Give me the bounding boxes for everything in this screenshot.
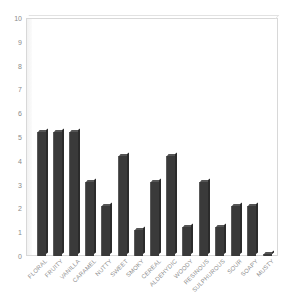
bar-chart: 012345678910 FLORALFRUITYVANILLACARAMELN… [0,0,303,308]
x-axis-labels: FLORALFRUITYVANILLACARAMELNUTTYSWEETSMOK… [33,258,276,308]
bar-slot [65,18,81,256]
y-axis-tick: 6 [18,110,22,117]
bar[interactable] [69,132,78,256]
bar[interactable] [182,227,191,256]
y-axis-tick: 3 [18,181,22,188]
bar-slot [211,18,227,256]
y-axis-tick: 8 [18,62,22,69]
bar[interactable] [118,156,127,256]
bar[interactable] [215,227,224,256]
bar-slot [146,18,162,256]
y-axis-tick: 0 [18,253,22,260]
y-axis-tick: 1 [18,229,22,236]
y-axis: 012345678910 [0,0,26,308]
y-axis-tick: 5 [18,134,22,141]
bar-slot [260,18,276,256]
y-axis-tick: 2 [18,205,22,212]
bar[interactable] [134,230,143,256]
bar-slot [163,18,179,256]
y-axis-tick: 7 [18,86,22,93]
bar[interactable] [37,132,46,256]
bar[interactable] [199,182,208,256]
bar[interactable] [53,132,62,256]
bars-layer [33,18,276,256]
bar[interactable] [231,206,240,256]
bar-slot [195,18,211,256]
bar[interactable] [85,182,94,256]
y-axis-tick: 9 [18,38,22,45]
bar[interactable] [263,254,272,256]
bar-slot [130,18,146,256]
bar-slot [98,18,114,256]
y-axis-tick: 4 [18,157,22,164]
bar-slot [244,18,260,256]
bar[interactable] [166,156,175,256]
bar[interactable] [101,206,110,256]
bar-slot [82,18,98,256]
plot-left-wall [27,19,32,255]
bar-slot [49,18,65,256]
bar[interactable] [247,206,256,256]
bar[interactable] [150,182,159,256]
y-axis-tick: 10 [14,15,22,22]
bar-slot [33,18,49,256]
bar-slot [114,18,130,256]
bar-slot [179,18,195,256]
bar-slot [227,18,243,256]
